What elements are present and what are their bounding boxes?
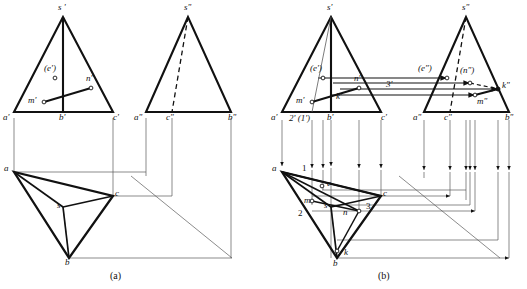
label-b-b: b	[333, 259, 338, 268]
label-a-dprime-b: a"	[413, 113, 421, 122]
label-a: a	[4, 164, 9, 173]
label-b: b	[65, 258, 70, 267]
construction-lines-a	[14, 118, 232, 258]
label-a-b: a	[272, 164, 277, 173]
miter-line-b	[399, 176, 500, 258]
point-e-top	[320, 184, 324, 188]
depth-transfer-lines-b	[312, 176, 509, 258]
miter-line-a	[131, 176, 232, 258]
label-s-prime-b: s'	[327, 3, 332, 12]
label-n-dprime: (n")	[460, 66, 474, 75]
line-mk-side	[475, 89, 498, 95]
label-m: m	[304, 196, 311, 205]
caption-a: (a)	[110, 270, 121, 281]
label-n-prime-b: n'	[354, 74, 360, 83]
label-b-dprime-b: b"	[505, 113, 513, 122]
label-b-prime-b: b'	[327, 113, 333, 122]
point-e-prime-a	[53, 76, 57, 80]
label-a-prime-b: a'	[271, 113, 277, 122]
line-mn-front-a	[44, 88, 91, 102]
top-view-a-shape	[14, 172, 113, 258]
label-b-prime: b'	[59, 113, 65, 122]
label-m-prime-b: m'	[296, 96, 304, 105]
label-e-prime-b: (e')	[310, 64, 322, 73]
panel-b-group	[282, 17, 509, 258]
label-1: 1	[302, 164, 307, 173]
label-c-prime: c'	[113, 113, 119, 122]
point-n-top	[357, 209, 361, 213]
point-e-prime-b	[321, 76, 325, 80]
label-a-dprime: a"	[134, 113, 142, 122]
label-c: c	[115, 189, 119, 198]
label-2: 2	[298, 209, 303, 218]
point-n-prime-b	[357, 86, 361, 90]
point-n-prime-a	[89, 86, 93, 90]
label-s-dprime: s"	[184, 3, 191, 12]
label-s-b: s	[324, 201, 328, 210]
label-a-prime: a'	[3, 113, 9, 122]
projector-continuations-b	[312, 168, 509, 258]
label-k: k	[344, 248, 348, 257]
label-s-dprime-b: s"	[462, 3, 469, 12]
vertical-projectors-b	[282, 120, 509, 170]
side-view-a-shape	[146, 17, 231, 112]
label-c-prime-b: c'	[381, 113, 387, 122]
label-m-prime: m'	[28, 96, 36, 105]
drawing-canvas	[0, 0, 527, 289]
label-e: e	[327, 179, 331, 188]
label-k-prime-b: k'	[336, 92, 342, 101]
label-3: 3	[366, 202, 371, 211]
label-b-dprime: b"	[228, 113, 236, 122]
label-c-b: c	[383, 189, 387, 198]
point-m-prime-b	[310, 100, 314, 104]
label-2-1-prime: 2' (1')	[289, 114, 310, 123]
label-3-prime: 3'	[386, 80, 392, 89]
label-n: n	[343, 208, 348, 217]
hidden-nk-side	[470, 83, 498, 89]
label-e-dprime: (e")	[418, 64, 432, 73]
label-s: s	[57, 201, 61, 210]
caption-b: (b)	[378, 270, 390, 281]
panel-a-group	[14, 17, 232, 258]
point-k-top	[335, 249, 339, 253]
label-s-prime: s '	[58, 3, 66, 12]
label-k-dprime: k"	[502, 81, 510, 90]
label-e-prime: (e')	[44, 64, 56, 73]
point-e-dprime	[445, 76, 449, 80]
label-c-dprime: c"	[166, 113, 174, 122]
hidden-edge-a	[172, 17, 188, 112]
figure-root: — — — — — —	[0, 0, 527, 289]
point-m-prime-a	[42, 100, 46, 104]
point-k-dprime	[496, 87, 500, 91]
label-c-dprime-b: c"	[444, 113, 452, 122]
point-n-dprime	[468, 81, 472, 85]
label-m-dprime: m"	[477, 97, 487, 106]
label-n-prime: n'	[86, 74, 92, 83]
top-view-b-shape	[282, 172, 381, 258]
